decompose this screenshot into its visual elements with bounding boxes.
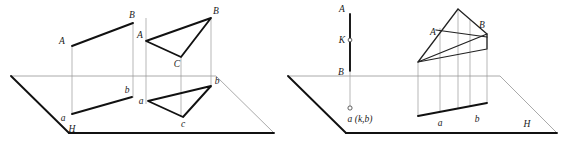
right-tri-projectors: [418, 8, 487, 116]
left-triangle-abc: [148, 86, 211, 117]
left-label-A-tri: A: [136, 30, 143, 40]
left-panel: A B a b A B C a b c H: [11, 6, 274, 134]
left-label-plane-H: H: [68, 124, 77, 134]
right-label-K-line: K: [338, 35, 346, 45]
left-label-B-tri: B: [213, 6, 219, 16]
right-label-A-tri: A: [429, 27, 436, 37]
left-triangle-ABC: [146, 18, 211, 57]
diagram-container: A B a b A B C a b c H: [0, 0, 566, 146]
right-projecting-line: [348, 14, 352, 110]
projection-diagram: A B a b A B C a b c H: [0, 0, 566, 146]
left-label-a-quad: a: [61, 113, 66, 123]
left-plane-right-edge: [216, 76, 274, 133]
left-triangle-ABC-outline: [146, 18, 211, 57]
right-label-A-line: A: [338, 4, 345, 14]
left-label-C-tri: C: [174, 59, 181, 69]
right-label-B-line: B: [338, 67, 344, 77]
left-edge-ab: [72, 97, 132, 114]
left-label-b-proj: b: [215, 76, 220, 86]
left-quad-projectors: [72, 22, 133, 115]
left-edge-AB: [72, 23, 133, 46]
right-label-a-proj: a: [438, 118, 443, 128]
right-triangle-chord-AB: [436, 30, 487, 37]
right-label-b-proj: b: [475, 114, 480, 124]
right-triangle-space: [418, 9, 487, 62]
left-plane-left-edge: [11, 76, 69, 133]
left-label-b-quad: b: [125, 85, 130, 95]
right-plane-h: [288, 76, 557, 133]
right-plane-left-edge: [288, 76, 346, 133]
left-label-B-quad: B: [129, 10, 135, 20]
left-quadrilateral: [72, 23, 133, 114]
right-panel: A K B a (k,b) A: [288, 4, 557, 133]
left-triangle-abc-outline: [148, 86, 211, 117]
right-point-K-marker: [348, 38, 352, 42]
left-label-a-proj: a: [139, 96, 144, 106]
right-label-point-projection: a (k,b): [348, 114, 373, 125]
right-label-plane-H: H: [523, 119, 532, 129]
left-label-c-proj: c: [181, 119, 186, 129]
right-label-B-tri: B: [479, 20, 485, 30]
right-point-projection-marker: [348, 106, 352, 110]
left-label-A-quad: A: [58, 36, 65, 46]
